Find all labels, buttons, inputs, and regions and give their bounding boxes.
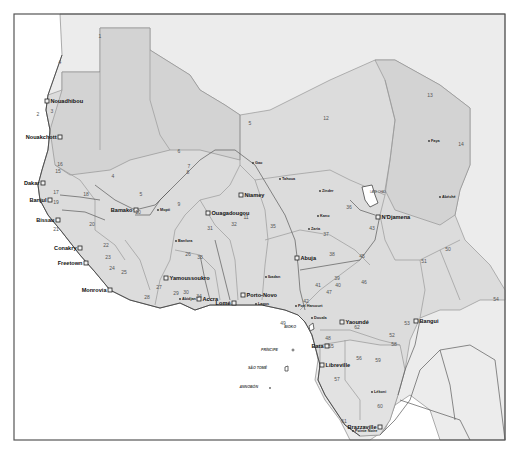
region-number: 27 bbox=[156, 284, 162, 290]
region-number: 47 bbox=[326, 289, 332, 295]
city-portharcourt: Port Harcourt bbox=[295, 304, 323, 308]
capital-square-icon bbox=[84, 261, 88, 265]
region-number: 28 bbox=[144, 294, 150, 300]
region-number: 39 bbox=[334, 275, 340, 281]
region-number: 56 bbox=[356, 355, 362, 361]
region-number: 2 bbox=[37, 111, 40, 117]
region-number: 61 bbox=[341, 418, 347, 424]
region-number: 20 bbox=[89, 221, 95, 227]
region-number: 46 bbox=[361, 279, 367, 285]
lake-label: LAKE CHAD bbox=[370, 190, 386, 194]
capital-ndjamena: N'Djamena bbox=[376, 214, 411, 220]
region-number: 10 bbox=[135, 209, 141, 215]
map-canvas: NouadhibouNouakchottDakarBanjulBissauCon… bbox=[0, 0, 519, 462]
region-number: 18 bbox=[83, 191, 89, 197]
region-number: 62 bbox=[354, 324, 360, 330]
region-number: 54 bbox=[493, 296, 499, 302]
capital-label: Lomé bbox=[216, 300, 231, 306]
region-number: 16 bbox=[57, 161, 63, 167]
city-dot-icon bbox=[255, 303, 257, 305]
region-number: 57 bbox=[334, 376, 340, 382]
capital-square-icon bbox=[295, 256, 299, 260]
city-dot-icon bbox=[252, 162, 254, 164]
capital-abuja: Abuja bbox=[295, 255, 317, 261]
capital-yamoussoukro: Yamoussoukro bbox=[164, 275, 210, 281]
city-dot-icon bbox=[308, 228, 310, 230]
region-number: 52 bbox=[389, 332, 395, 338]
capital-label: Porto-Novo bbox=[247, 292, 278, 298]
capital-square-icon bbox=[378, 425, 382, 429]
capital-square-icon bbox=[206, 211, 210, 215]
map: NouadhibouNouakchottDakarBanjulBissauCon… bbox=[0, 0, 519, 462]
island-label: SÃO TOMÉ bbox=[248, 365, 268, 370]
capital-label: N'Djamena bbox=[382, 214, 412, 220]
capital-label: Libreville bbox=[326, 362, 351, 368]
region-number: 60 bbox=[377, 403, 383, 409]
lake-labels-layer: LAKE CHAD bbox=[370, 190, 386, 194]
capital-label: Dakar bbox=[24, 180, 40, 186]
region-number: 13 bbox=[427, 92, 433, 98]
region-number: 41 bbox=[315, 282, 321, 288]
region-number: 3 bbox=[51, 108, 54, 114]
city-dot-icon bbox=[371, 391, 373, 393]
city-label: Douala bbox=[314, 316, 328, 320]
capital-square-icon bbox=[164, 276, 168, 280]
region-number: 55 bbox=[328, 343, 334, 349]
city-label: Lagos bbox=[258, 302, 269, 306]
city-dot-icon bbox=[428, 140, 430, 142]
region-number: 40 bbox=[335, 282, 341, 288]
city-banfora: Banfora bbox=[175, 239, 193, 243]
capital-label: Nouakchott bbox=[26, 134, 57, 140]
capital-square-icon bbox=[41, 181, 45, 185]
city-label: Zinder bbox=[322, 189, 334, 193]
region-number: 36 bbox=[346, 204, 352, 210]
city-mopti: Mopti bbox=[157, 208, 170, 212]
region-number: 49 bbox=[280, 320, 286, 326]
capital-label: Banjul bbox=[29, 197, 47, 203]
capital-conakry: Conakry bbox=[54, 245, 82, 251]
region-number: 5 bbox=[249, 120, 252, 126]
region-number: 34 bbox=[196, 293, 202, 299]
region-number: 1 bbox=[99, 33, 102, 39]
city-label: Tahoua bbox=[282, 177, 296, 181]
city-abch: Abéché bbox=[439, 195, 456, 199]
region-number: 51 bbox=[421, 258, 427, 264]
region-number: 5 bbox=[140, 191, 143, 197]
capital-label: Monrovia bbox=[82, 287, 108, 293]
capital-square-icon bbox=[241, 293, 245, 297]
capital-label: Conakry bbox=[54, 245, 77, 251]
region-number: 15 bbox=[55, 168, 61, 174]
region-number: 33 bbox=[197, 254, 203, 260]
capital-label: Yamoussoukro bbox=[170, 275, 211, 281]
region-number: 58 bbox=[391, 341, 397, 347]
capital-dakar: Dakar bbox=[24, 180, 45, 186]
capital-square-icon bbox=[414, 319, 418, 323]
city-lkoni: Lékoni bbox=[371, 390, 386, 394]
region-number: 31 bbox=[207, 225, 213, 231]
city-lagos: Lagos bbox=[255, 302, 269, 306]
region-number: 19 bbox=[53, 199, 59, 205]
city-dot-icon bbox=[279, 178, 281, 180]
city-label: Abéché bbox=[442, 195, 456, 199]
capital-banjul: Banjul bbox=[29, 197, 52, 203]
city-label: Mopti bbox=[160, 208, 170, 212]
region-number: 26 bbox=[185, 251, 191, 257]
capital-lom: Lomé bbox=[216, 300, 236, 306]
city-tahoua: Tahoua bbox=[279, 177, 296, 181]
region-number: 23 bbox=[105, 254, 111, 260]
region-number: 45 bbox=[359, 253, 365, 259]
capital-label: Freetown bbox=[58, 260, 83, 266]
city-dot-icon bbox=[157, 209, 159, 211]
city-label: Gao bbox=[255, 161, 263, 165]
capital-square-icon bbox=[48, 198, 52, 202]
region-number: 17 bbox=[53, 189, 59, 195]
capital-square-icon bbox=[376, 215, 380, 219]
city-pointenoire: Pointe Noire bbox=[352, 429, 377, 433]
region-number: 32 bbox=[231, 221, 237, 227]
region-number: 38 bbox=[329, 251, 335, 257]
island-label: BIOKO bbox=[284, 325, 296, 329]
region-number: 4 bbox=[112, 173, 115, 179]
capital-label: Bamako bbox=[111, 207, 133, 213]
city-label: Port Harcourt bbox=[298, 304, 323, 308]
capital-square-icon bbox=[232, 301, 236, 305]
